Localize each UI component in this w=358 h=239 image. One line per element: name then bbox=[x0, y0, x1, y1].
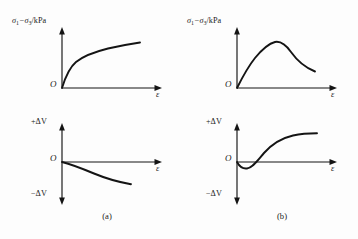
y-axis-negative-label-a: −ΔV bbox=[31, 190, 47, 198]
y-axis-positive-label-a: +ΔV bbox=[31, 118, 47, 126]
x-axis-label-b-top: ε bbox=[331, 90, 334, 99]
y-axis-arrowhead-up bbox=[234, 123, 240, 131]
curve-b-top bbox=[237, 42, 315, 88]
panel-b: σ1−σ3/kPa O ε +ΔV −ΔV O ε (b) bbox=[179, 0, 358, 239]
y-axis-arrowhead-up bbox=[59, 123, 65, 131]
y-axis-label-a-top: σ1−σ3/kPa bbox=[12, 17, 46, 25]
y-axis-arrowhead bbox=[59, 27, 65, 35]
panel-caption-a: (a) bbox=[87, 211, 127, 221]
y-axis-arrowhead-down bbox=[59, 198, 65, 206]
x-axis-label-a-bottom: ε bbox=[156, 164, 159, 173]
triaxial-test-figure: σ1−σ3/kPa O ε +ΔV −ΔV O ε (a) bbox=[0, 0, 358, 239]
x-axis-label-b-bottom: ε bbox=[331, 164, 334, 173]
y-axis-label-b-top: σ1−σ3/kPa bbox=[187, 17, 221, 25]
panel-a: σ1−σ3/kPa O ε +ΔV −ΔV O ε (a) bbox=[0, 0, 179, 239]
origin-label-b-bottom: O bbox=[225, 153, 232, 163]
origin-label-a-bottom: O bbox=[50, 153, 57, 163]
chart-a-top: σ1−σ3/kPa O ε bbox=[0, 0, 179, 110]
curve-a-bottom bbox=[62, 162, 131, 184]
y-axis-positive-label-b: +ΔV bbox=[206, 118, 222, 126]
panel-caption-b: (b) bbox=[262, 211, 302, 221]
origin-label-b-top: O bbox=[225, 79, 232, 89]
chart-b-top: σ1−σ3/kPa O ε bbox=[179, 0, 358, 110]
origin-label-a-top: O bbox=[50, 79, 57, 89]
curve-b-bottom bbox=[237, 133, 317, 168]
x-axis-label-a-top: ε bbox=[156, 90, 159, 99]
y-axis-arrowhead bbox=[234, 27, 240, 35]
y-axis-negative-label-b: −ΔV bbox=[206, 190, 222, 198]
curve-a-top bbox=[62, 43, 140, 89]
y-axis-arrowhead-down bbox=[234, 198, 240, 206]
